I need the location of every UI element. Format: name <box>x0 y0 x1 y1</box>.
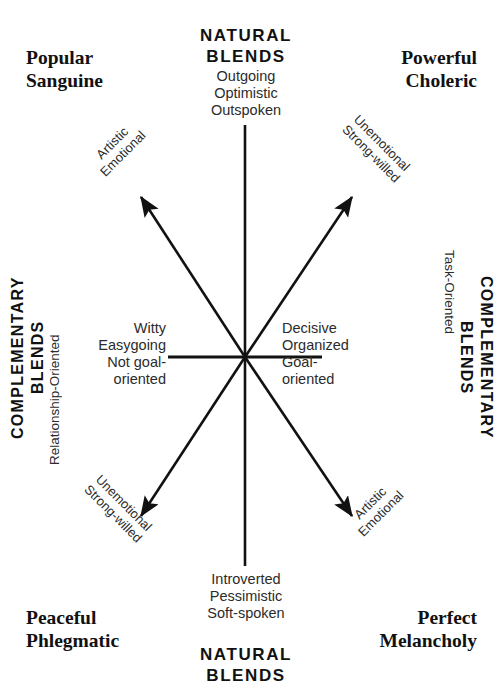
traits-bottom-introverted: Introverted Pessimistic Soft-spoken <box>146 571 346 622</box>
corner-label-perfect-melancholy: Perfect Melancholy <box>380 606 478 652</box>
corner-label-powerful-choleric: Powerful Choleric <box>401 46 477 92</box>
traits-top-extroverted: Outgoing Optimistic Outspoken <box>146 68 346 119</box>
corner-label-popular-sanguine: Popular Sanguine <box>26 46 103 92</box>
natural-blends-heading-bottom: NATURAL BLENDS <box>146 645 346 686</box>
complementary-blends-right-heading: COMPLEMENTARY BLENDS <box>457 250 496 465</box>
complementary-blends-right: COMPLEMENTARY BLENDS Task-Oriented <box>418 250 496 465</box>
complementary-blends-right-subtitle: Task-Oriented <box>442 250 457 465</box>
temperament-diagram: Popular Sanguine Powerful Choleric Peace… <box>0 0 503 699</box>
corner-label-peaceful-phlegmatic: Peaceful Phlegmatic <box>26 606 119 652</box>
complementary-blends-left: COMPLEMENTARY BLENDS Relationship-Orient… <box>8 250 86 465</box>
traits-right-task: Decisive Organized Goal- oriented <box>282 320 432 388</box>
complementary-blends-left-heading: COMPLEMENTARY BLENDS <box>8 250 47 465</box>
natural-blends-heading-top: NATURAL BLENDS <box>146 26 346 67</box>
complementary-blends-left-subtitle: Relationship-Oriented <box>47 250 62 465</box>
